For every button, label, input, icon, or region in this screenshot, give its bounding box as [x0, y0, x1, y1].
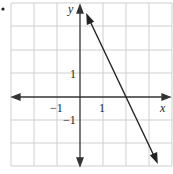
item-marker	[1, 7, 4, 10]
axes	[12, 5, 170, 166]
y-tick-pos1: 1	[70, 67, 76, 81]
line-top-arrow-icon	[87, 15, 93, 24]
y-tick-neg1: −1	[63, 113, 76, 127]
x-axis-label: x	[159, 101, 166, 115]
y-axis-label: y	[67, 2, 74, 16]
x-axis-left-arrow-icon	[12, 94, 20, 100]
plotted-line	[87, 15, 157, 162]
x-tick-neg1: −1	[50, 101, 63, 115]
x-axis-right-arrow-icon	[162, 94, 170, 100]
y-axis-up-arrow-icon	[77, 5, 83, 13]
y-axis-down-arrow-icon	[77, 158, 83, 166]
line-bottom-arrow-icon	[151, 153, 157, 162]
x-tick-pos1: 1	[99, 101, 105, 115]
coordinate-plane: y x −1 1 1 −1	[0, 0, 173, 174]
